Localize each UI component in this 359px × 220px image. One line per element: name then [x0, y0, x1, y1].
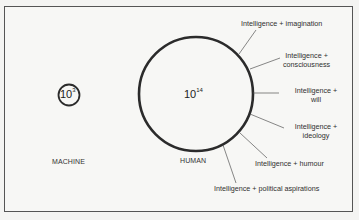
- leader-consciousness: [250, 58, 280, 69]
- leader-humour: [240, 133, 267, 158]
- annotation-consciousness: Intelligence + consciousness: [283, 52, 330, 69]
- leader-imagination: [239, 30, 256, 54]
- annotation-imagination: Intelligence + imagination: [241, 20, 322, 29]
- annotation-political: Intelligence + political aspirations: [214, 185, 319, 194]
- annotation-will: Intelligence + will: [287, 87, 345, 104]
- machine-label: MACHINE: [52, 158, 85, 165]
- machine-value: 103: [60, 88, 76, 100]
- leader-political: [223, 145, 236, 183]
- human-label: HUMAN: [180, 157, 206, 164]
- annotation-humour: Intelligence + humour: [255, 160, 324, 169]
- diagram-canvas: 103 1014 MACHINE HUMAN Intelligence + im…: [0, 0, 359, 220]
- leader-ideology: [250, 114, 284, 128]
- human-value: 1014: [184, 88, 203, 100]
- annotation-ideology: Intelligence + ideology: [287, 123, 345, 140]
